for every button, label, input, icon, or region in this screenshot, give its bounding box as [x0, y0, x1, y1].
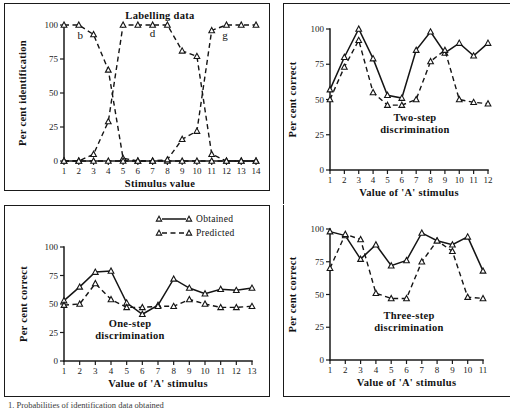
data-point-marker: [179, 48, 185, 53]
y-axis-title: Per cent correct: [287, 61, 298, 137]
x-tick-label-7: 8: [435, 365, 440, 375]
data-point-marker: [105, 119, 111, 124]
panel-heading-line2: discrimination: [374, 322, 444, 333]
data-point-marker: [456, 40, 462, 45]
y-tick-label-0: 0: [320, 355, 325, 365]
data-point-marker: [480, 295, 486, 300]
x-tick-label-8: 9: [450, 365, 455, 375]
series-line-b: [64, 25, 256, 161]
x-tick-label-4: 5: [121, 166, 126, 176]
legend-marker-left: [156, 230, 161, 235]
panel-heading-line1: Two-step: [393, 112, 436, 123]
x-tick-label-3: 4: [371, 175, 376, 185]
x-tick-label-6: 7: [414, 175, 419, 185]
data-point-marker: [139, 304, 145, 309]
x-tick-label-9: 10: [201, 366, 211, 376]
x-tick-label-12: 13: [237, 166, 247, 176]
chart-labelling: 02550751001234567891011121314Stimulus va…: [17, 10, 261, 189]
category-label-g: g: [222, 29, 228, 41]
data-point-marker: [171, 276, 177, 281]
data-point-marker: [179, 158, 185, 163]
category-label-d: d: [150, 27, 156, 39]
data-point-marker: [399, 95, 405, 100]
x-axis-title: Stimulus value: [125, 178, 195, 189]
data-point-marker: [327, 97, 333, 102]
data-point-marker: [186, 296, 192, 301]
x-tick-label-9: 10: [192, 166, 202, 176]
x-tick-label-11: 12: [232, 366, 241, 376]
data-point-marker: [224, 158, 230, 163]
x-tick-label-10: 11: [479, 365, 488, 375]
x-tick-label-10: 11: [469, 175, 478, 185]
chart-one-step: 025507510012345678910111213Value of 'A' …: [18, 214, 257, 389]
data-point-marker: [413, 97, 419, 102]
figure-container: 02550751001234567891011121314Stimulus va…: [0, 0, 511, 412]
data-point-marker: [485, 101, 491, 106]
y-tick-label-0: 0: [54, 156, 59, 166]
x-tick-label-9: 10: [455, 175, 465, 185]
data-point-marker: [385, 92, 391, 97]
data-point-marker: [61, 158, 67, 163]
x-tick-label-7: 8: [428, 175, 433, 185]
y-tick-label-4: 100: [45, 20, 59, 30]
data-point-marker: [224, 22, 230, 27]
data-point-marker: [370, 89, 376, 94]
x-tick-label-2: 3: [356, 175, 361, 185]
x-axis-title: Value of 'A' stimulus: [359, 187, 459, 198]
panel-labelling: 02550751001234567891011121314Stimulus va…: [4, 3, 270, 193]
data-point-marker: [209, 158, 215, 163]
data-point-marker: [120, 22, 126, 27]
x-tick-label-5: 6: [400, 175, 405, 185]
data-point-marker: [327, 87, 333, 92]
data-point-marker: [249, 285, 255, 290]
data-point-marker: [419, 230, 425, 235]
legend-label-0: Obtained: [196, 214, 233, 224]
data-point-marker: [434, 238, 440, 243]
data-point-marker: [61, 22, 67, 27]
data-point-marker: [373, 290, 379, 295]
data-point-marker: [238, 158, 244, 163]
legend-marker-right: [186, 216, 191, 221]
data-point-marker: [91, 151, 97, 156]
series-line-g: [64, 25, 256, 161]
data-point-marker: [399, 102, 405, 107]
x-tick-label-3: 4: [374, 365, 379, 375]
panel-one-step: 025507510012345678910111213Value of 'A' …: [4, 205, 270, 397]
y-tick-label-1: 25: [315, 322, 325, 332]
x-tick-label-6: 7: [156, 366, 161, 376]
y-tick-label-0: 0: [54, 356, 59, 366]
data-point-marker: [356, 26, 362, 31]
data-point-marker: [179, 136, 185, 141]
x-tick-label-1: 2: [342, 175, 347, 185]
data-point-marker: [209, 151, 215, 156]
data-point-marker: [186, 285, 192, 290]
x-tick-label-2: 3: [93, 366, 98, 376]
chart-three-step: 02550751001234567891011Value of 'A' stim…: [287, 224, 487, 388]
x-tick-label-0: 1: [62, 166, 67, 176]
panel-heading-line2: discrimination: [380, 124, 450, 135]
data-point-marker: [356, 37, 362, 42]
data-point-marker: [92, 269, 98, 274]
y-tick-label-3: 75: [49, 271, 59, 281]
data-point-marker: [105, 158, 111, 163]
x-tick-label-2: 3: [358, 365, 363, 375]
data-point-marker: [238, 22, 244, 27]
y-tick-label-2: 50: [49, 299, 59, 309]
y-axis-title: Per cent correct: [18, 266, 29, 342]
data-point-marker: [194, 128, 200, 133]
y-tick-label-3: 75: [315, 59, 325, 69]
data-point-marker: [253, 22, 259, 27]
panel-heading-line1: One-step: [109, 318, 152, 329]
y-tick-label-2: 50: [49, 88, 59, 98]
x-tick-label-8: 9: [443, 175, 448, 185]
data-point-marker: [171, 303, 177, 308]
data-point-marker: [209, 27, 215, 32]
x-tick-label-13: 14: [252, 166, 262, 176]
x-tick-label-3: 4: [106, 166, 111, 176]
data-point-marker: [471, 99, 477, 104]
x-tick-label-0: 1: [328, 365, 333, 375]
chart-two-step: 0255075100123456789101112Value of 'A' st…: [287, 24, 493, 198]
panel-two-step: 0255075100123456789101112Value of 'A' st…: [283, 3, 510, 205]
data-point-marker: [428, 29, 434, 34]
y-tick-label-3: 75: [49, 54, 59, 64]
